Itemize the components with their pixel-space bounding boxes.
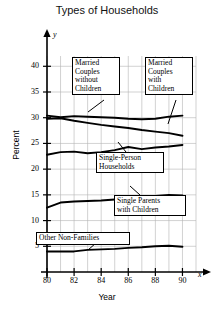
y-tick-label: 30 bbox=[23, 113, 39, 122]
x-tick-label: 84 bbox=[93, 276, 109, 285]
annotation-leader-line bbox=[88, 100, 104, 112]
y-tick-label: 40 bbox=[23, 61, 39, 70]
chart-figure: Types of Households Percent Year y x 808… bbox=[0, 0, 214, 313]
y-tick-label: 20 bbox=[23, 164, 39, 173]
annotation-married-without-children: Married Couples without Children bbox=[72, 57, 120, 95]
y-tick-label: 15 bbox=[23, 190, 39, 199]
x-tick-label: 86 bbox=[120, 276, 136, 285]
y-axis-title: Percent bbox=[11, 115, 21, 175]
x-tick-label: 90 bbox=[174, 276, 190, 285]
x-axis-arrow bbox=[203, 268, 211, 275]
y-tick-label: 35 bbox=[23, 87, 39, 96]
annotation-single-person-households: Single-Person Households bbox=[96, 152, 164, 173]
x-tick-label: 80 bbox=[39, 276, 55, 285]
y-tick-label: 10 bbox=[23, 216, 39, 225]
y-axis-variable: y bbox=[53, 30, 57, 39]
x-axis-title: Year bbox=[0, 292, 214, 302]
y-axis-arrow bbox=[43, 29, 50, 37]
x-axis-variable: x bbox=[198, 270, 202, 279]
annotation-single-parents-with-children: Single Parents with Children bbox=[114, 195, 186, 216]
x-tick-label: 88 bbox=[147, 276, 163, 285]
annotation-leader-line bbox=[130, 186, 140, 195]
annotation-married-with-children: Married Couples with Children bbox=[145, 57, 193, 95]
y-tick-label: 25 bbox=[23, 138, 39, 147]
x-tick-label: 82 bbox=[66, 276, 82, 285]
annotation-other-non-families: Other Non-Families bbox=[36, 232, 130, 245]
